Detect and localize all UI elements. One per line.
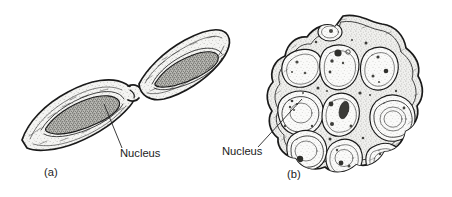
cell-illustration: Nucleus (a) — [0, 0, 452, 197]
nucleus-label-a: Nucleus — [120, 147, 161, 159]
inner-cell-b-7 — [370, 95, 415, 141]
cell-junction-a — [127, 85, 140, 101]
nucleus-label-b: Nucleus — [222, 145, 263, 157]
panel-b: Nucleus (b) — [222, 15, 422, 180]
inner-cell-b-5 — [278, 91, 323, 135]
panel-caption-a: (a) — [44, 166, 58, 178]
cell-mass-b — [267, 15, 422, 179]
panel-caption-b: (b) — [287, 168, 301, 180]
cell-a-lower-left — [22, 80, 135, 150]
inner-cell-b-6 — [322, 93, 359, 136]
inner-cell-b-8 — [287, 131, 327, 171]
cell-a-upper-right — [139, 30, 229, 100]
inner-cell-b-3 — [320, 45, 359, 90]
inner-cell-b-4 — [360, 47, 398, 90]
panel-a: Nucleus (a) — [22, 30, 229, 178]
inner-cell-b-10 — [366, 143, 403, 179]
figure-container: Nucleus (a) — [0, 0, 452, 197]
